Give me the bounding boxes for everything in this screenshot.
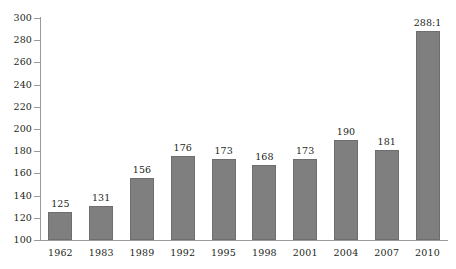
x-axis-label: 2010 [403,248,453,258]
bars-layer: 1251962131198315619891761992173199516819… [0,0,456,269]
bar-group: 1311983 [82,0,120,269]
bar [130,178,154,240]
bar [212,159,236,240]
bar-group: 1731995 [205,0,243,269]
bar-value-label: 190 [321,127,371,137]
bar-value-label: 156 [117,165,167,175]
bar [375,150,399,240]
bar-value-label: 131 [76,193,126,203]
bar-group: 1732001 [286,0,324,269]
bar-group: 1761992 [164,0,202,269]
bar-group: 1902004 [327,0,365,269]
bar-group: 1561989 [123,0,161,269]
bar-value-label: 181 [362,137,412,147]
bar-chart: 300280260240220200180160140120100 125196… [0,0,456,269]
bar-value-label: 288:1 [403,18,453,28]
bar [171,156,195,240]
bar [252,165,276,240]
bar-group: 1681998 [245,0,283,269]
bar [416,31,440,240]
bar-value-label: 173 [280,146,330,156]
bar [334,140,358,240]
bar [293,159,317,240]
bar [48,212,72,240]
bar-group: 1251962 [41,0,79,269]
bar [89,206,113,240]
bar-group: 1812007 [368,0,406,269]
bar-group: 288:12010 [409,0,447,269]
